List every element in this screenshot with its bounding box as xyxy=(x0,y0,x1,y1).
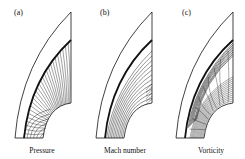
panel-label-c: (c) xyxy=(182,9,191,17)
contour-plots xyxy=(0,0,245,159)
caption-vorticity: Vorticity xyxy=(198,147,224,155)
caption-mach-number: Mach number xyxy=(104,147,146,155)
figure: (a) (b) (c) Pressure Mach number Vortici… xyxy=(0,0,245,159)
panel-label-b: (b) xyxy=(100,9,109,17)
panel-label-a: (a) xyxy=(14,9,23,17)
caption-pressure: Pressure xyxy=(29,147,54,155)
